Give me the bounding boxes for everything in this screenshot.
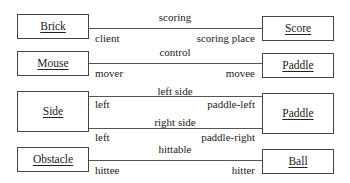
role-scoring-place: scoring place bbox=[197, 33, 255, 44]
class-name-paddle-1: Paddle bbox=[282, 60, 313, 72]
association-line-right-side bbox=[89, 128, 262, 129]
role-hittee: hittee bbox=[95, 165, 119, 176]
class-name-mouse: Mouse bbox=[37, 58, 68, 70]
class-name-score: Score bbox=[285, 23, 311, 35]
role-paddle-left: paddle-left bbox=[207, 99, 255, 110]
class-box-ball: Ball bbox=[262, 149, 334, 174]
class-box-mouse: Mouse bbox=[17, 51, 89, 76]
association-line-hittable bbox=[89, 160, 262, 161]
role-mover: mover bbox=[95, 68, 123, 79]
class-box-paddle-2: Paddle bbox=[262, 93, 334, 134]
class-box-paddle-1: Paddle bbox=[262, 53, 334, 78]
association-name-scoring: scoring bbox=[159, 12, 191, 23]
role-client: client bbox=[95, 33, 119, 44]
uml-diagram: Brick scoring client scoring place Score… bbox=[0, 0, 350, 183]
class-box-brick: Brick bbox=[17, 14, 89, 39]
class-name-obstacle: Obstacle bbox=[33, 154, 73, 166]
association-line-scoring bbox=[89, 28, 262, 29]
association-name-right-side: right side bbox=[154, 117, 195, 128]
role-left-1: left bbox=[95, 99, 110, 110]
class-box-obstacle: Obstacle bbox=[17, 147, 89, 172]
role-paddle-right: paddle-right bbox=[201, 132, 255, 143]
association-name-left-side: left side bbox=[157, 86, 192, 97]
class-name-paddle-2: Paddle bbox=[282, 108, 313, 120]
class-name-side: Side bbox=[43, 106, 63, 118]
class-box-side: Side bbox=[17, 91, 89, 132]
role-hitter: hitter bbox=[232, 165, 255, 176]
association-name-control: control bbox=[159, 47, 190, 58]
class-name-brick: Brick bbox=[40, 21, 66, 33]
association-name-hittable: hittable bbox=[159, 144, 192, 155]
role-left-2: left bbox=[95, 132, 110, 143]
class-name-ball: Ball bbox=[288, 156, 307, 168]
role-movee: movee bbox=[226, 68, 255, 79]
association-line-control bbox=[89, 63, 262, 64]
class-box-score: Score bbox=[262, 16, 334, 41]
